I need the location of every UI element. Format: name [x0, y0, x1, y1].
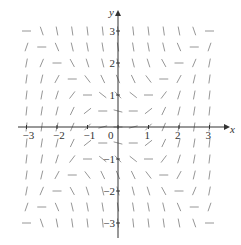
slope-segment — [56, 107, 58, 116]
slope-segment — [41, 155, 43, 164]
slope-segment — [26, 75, 27, 84]
slope-segment — [26, 155, 27, 164]
slope-segment — [56, 155, 59, 164]
slope-segment — [145, 140, 152, 146]
direction-field-plot: −3−2−10123−3−2−1123 x y — [0, 0, 241, 245]
x-tick-label: 1 — [145, 129, 151, 141]
slope-segment — [87, 203, 89, 212]
slope-segment — [26, 59, 28, 68]
slope-segment — [162, 139, 166, 147]
y-axis-arrow-icon — [115, 10, 121, 16]
slope-segment — [132, 59, 134, 68]
slope-segment — [84, 108, 91, 114]
slope-segment — [209, 107, 210, 116]
slope-segment — [71, 203, 73, 212]
slope-segment — [178, 219, 180, 228]
slope-segment — [146, 75, 151, 82]
x-tick-label: −1 — [84, 129, 96, 141]
slope-segment — [177, 75, 181, 83]
axes — [18, 10, 230, 238]
slope-segment — [40, 219, 43, 228]
slope-segment — [146, 171, 151, 178]
x-tick-label: 0 — [108, 129, 114, 141]
slope-segment — [147, 187, 150, 196]
slope-segment — [130, 156, 137, 162]
y-tick-label: 2 — [110, 57, 116, 69]
slope-segment — [41, 139, 42, 148]
slope-segment — [41, 107, 42, 116]
slope-segment — [177, 43, 181, 51]
slope-segment — [193, 171, 195, 180]
slope-segment — [102, 203, 103, 212]
x-tick-label: −3 — [23, 129, 35, 141]
slope-segment — [161, 155, 166, 162]
slope-segment — [70, 91, 75, 98]
slope-segment — [56, 219, 58, 228]
y-tick-label: 3 — [110, 25, 116, 37]
slope-segment — [41, 91, 43, 100]
y-tick-label: −1 — [103, 153, 115, 165]
slope-segment — [25, 203, 28, 212]
slope-segment — [163, 203, 165, 212]
slope-segment — [40, 59, 44, 67]
slope-segment — [148, 27, 149, 36]
slope-segment — [148, 43, 150, 52]
slope-segment — [162, 187, 166, 195]
slope-segment — [70, 59, 74, 67]
slope-segment — [40, 27, 43, 36]
slope-segment — [85, 75, 90, 82]
slope-segment — [178, 91, 181, 100]
slope-segment — [71, 43, 73, 52]
y-tick-label: −3 — [103, 217, 115, 229]
slope-segment — [84, 140, 91, 146]
slope-segment — [101, 171, 105, 179]
slope-segment — [130, 92, 137, 98]
slope-segment — [209, 59, 211, 68]
slope-segment — [132, 187, 134, 196]
slope-segment — [70, 107, 74, 115]
slope-segment — [148, 219, 149, 228]
slope-segment — [177, 171, 181, 179]
slope-segment — [131, 75, 135, 83]
slope-segment — [25, 43, 28, 52]
slope-segment — [163, 27, 164, 36]
slope-segment — [193, 27, 196, 36]
slope-segment — [99, 92, 106, 98]
slope-segment — [193, 75, 195, 84]
slope-segment — [133, 203, 134, 212]
slope-segment — [41, 171, 43, 180]
slope-segment — [55, 75, 59, 83]
slope-segment — [26, 171, 27, 180]
slope-segment — [145, 108, 152, 114]
slope-segment — [178, 107, 180, 116]
slope-segment — [133, 43, 134, 52]
slope-segment — [147, 59, 150, 68]
slope-segment — [87, 43, 89, 52]
slope-segment — [209, 187, 211, 196]
slope-segment — [102, 43, 103, 52]
slope-segment — [40, 187, 44, 195]
slope-segment — [56, 91, 59, 100]
slope-segment — [26, 187, 28, 196]
slope-segment — [208, 43, 211, 52]
slope-segment — [26, 107, 27, 116]
slope-segment — [178, 155, 181, 164]
slope-segment — [85, 171, 90, 178]
slope-segment — [209, 155, 210, 164]
slope-segment — [178, 27, 180, 36]
slope-segment — [55, 43, 59, 51]
y-tick-label: 1 — [110, 89, 116, 101]
slope-segment — [209, 91, 210, 100]
slope-segment — [192, 187, 196, 195]
slope-segment — [102, 27, 103, 36]
slope-segment — [133, 219, 134, 228]
slope-segment — [161, 91, 166, 98]
slope-segment — [209, 75, 210, 84]
slope-segment — [70, 187, 74, 195]
slope-segment — [162, 59, 166, 67]
slope-segment — [72, 219, 73, 228]
y-axis-label: y — [108, 6, 114, 18]
slope-segment — [209, 171, 210, 180]
slope-segment — [193, 91, 195, 100]
slope-segment — [70, 155, 75, 162]
